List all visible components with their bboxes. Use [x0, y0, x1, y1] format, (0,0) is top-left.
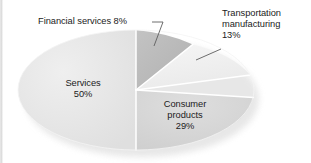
slice-label-financial-services: Financial services 8% [38, 16, 127, 27]
slice-label-transportation: Transportation manufacturing 13% [222, 8, 281, 42]
slice-label-consumer-products: Consumer products 29% [143, 99, 227, 133]
pie-chart-figure: Financial services 8% Transportation man… [0, 0, 311, 163]
slice-label-services: Services 50% [44, 78, 122, 100]
